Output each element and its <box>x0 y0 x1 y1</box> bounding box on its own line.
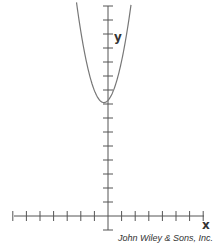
x-axis-label: x <box>202 218 210 232</box>
credit-text: John Wiley & Sons, Inc. <box>118 233 213 243</box>
coordinate-plane <box>0 0 217 244</box>
y-axis <box>103 6 113 230</box>
parabola-curve <box>77 2 132 102</box>
y-axis-label: y <box>114 30 122 44</box>
